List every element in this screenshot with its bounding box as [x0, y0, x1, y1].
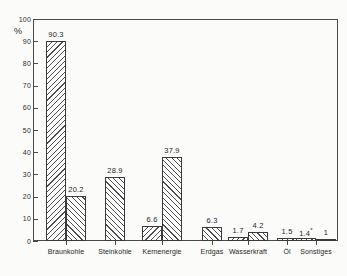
bar [296, 238, 316, 241]
bar-value-label: 1.7 [232, 227, 243, 235]
y-axis-tick-label: 100 [0, 16, 31, 23]
y-axis-tick-label: 50 [0, 127, 31, 134]
bar-value-label: 1.5 [281, 228, 292, 236]
x-axis-tick-label: Steinkohle [98, 248, 132, 256]
x-axis-tick-mark [248, 241, 249, 245]
bar-value-label: 37.9 [164, 147, 179, 155]
bar-value-label: 1.4* [299, 228, 313, 238]
footnote-marker: * [310, 227, 313, 233]
y-axis-tick-label: 10 [0, 215, 31, 222]
y-axis-tick-label: 40 [0, 149, 31, 156]
y-axis-tick-label: 30 [0, 171, 31, 178]
x-axis-tick-mark [316, 241, 317, 245]
y-axis-unit-label: % [14, 27, 22, 36]
bar-value-label: 6.6 [146, 216, 157, 224]
bar [202, 227, 222, 241]
bar [46, 41, 66, 241]
bar-value-label: 20.2 [68, 186, 83, 194]
bar-chart: % 1009080706050403020100 90.320.228.96.6… [0, 0, 347, 276]
x-axis-tick-mark [162, 241, 163, 245]
bar [105, 177, 125, 241]
x-axis-tick-label: Erdgas [201, 248, 224, 256]
y-axis-tick-label: 60 [0, 104, 31, 111]
x-axis-tick-mark [66, 241, 67, 245]
bar-value-label: 90.3 [48, 31, 63, 39]
x-axis-tick-mark [287, 241, 288, 245]
bar [316, 239, 336, 241]
bar-value-label: 1 [324, 229, 328, 237]
bar-value-label: 4.2 [252, 222, 263, 230]
y-axis-tick-label: 0 [0, 238, 31, 245]
x-axis-tick-label: Wasserkraft [229, 248, 267, 256]
bar [228, 237, 248, 241]
bar [142, 226, 162, 241]
bar [66, 196, 86, 241]
x-axis-tick-label: Öl [283, 248, 290, 256]
bar [248, 232, 268, 241]
y-axis-tick-label: 80 [0, 60, 31, 67]
y-axis-tick-label: 70 [0, 82, 31, 89]
x-axis-tick-label: Braunkohle [48, 248, 84, 256]
bar-value-label: 6.3 [206, 217, 217, 225]
y-axis-tick-label: 20 [0, 193, 31, 200]
bar-value-label: 28.9 [107, 167, 122, 175]
x-axis-tick-label: Kernenergie [142, 248, 181, 256]
x-axis-tick-label: Sonstiges [300, 248, 332, 256]
y-axis-tick-label: 90 [0, 38, 31, 45]
bar [162, 157, 182, 241]
x-axis-tick-mark [115, 241, 116, 245]
x-axis-tick-mark [212, 241, 213, 245]
y-axis-tick-mark [33, 241, 38, 242]
